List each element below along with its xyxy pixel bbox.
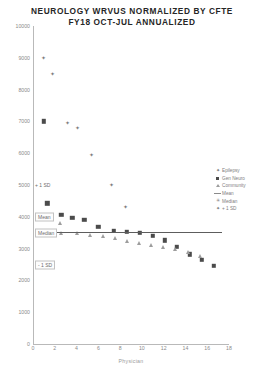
x-axis-tick-label: 8 [119, 345, 122, 351]
y-axis-tick-label: 10000 [16, 23, 30, 29]
data-point-triangle [125, 239, 129, 243]
data-point-square [212, 264, 216, 268]
data-point-triangle [58, 221, 62, 225]
data-point-triangle [101, 234, 105, 238]
data-point-triangle [186, 250, 190, 254]
plot-annotation: Median [35, 228, 57, 237]
data-point-square [70, 216, 74, 220]
y-axis-tick-label: 7000 [18, 118, 30, 124]
x-axis-tick-label: 12 [161, 345, 167, 351]
x-axis-tick-label: 6 [97, 345, 100, 351]
chart-legend: ✦EpilepsyGen NeuroCommunityMean✳Median✦+… [213, 167, 263, 213]
triangle-icon [216, 184, 220, 187]
chart-page: NEUROLOGY WRVUS NORMALIZED BY CFTE FY18 … [0, 0, 264, 388]
x-axis-tick-label: 10 [139, 345, 145, 351]
square-icon [213, 177, 222, 181]
x-axis-tick-label: 4 [75, 345, 78, 351]
x-axis-tick-label: 16 [204, 345, 210, 351]
y-axis-tick-label: 8000 [18, 87, 30, 93]
data-point-triangle [198, 254, 202, 258]
data-point-plus: ✦ [109, 182, 114, 188]
y-axis-tick-label: 3000 [18, 246, 30, 252]
data-point-square [151, 234, 155, 238]
x-axis-tick-label: 18 [226, 345, 232, 351]
legend-item[interactable]: Community [213, 182, 263, 190]
x-axis-title: Physician [119, 358, 144, 364]
y-axis-tick-label: 1000 [18, 309, 30, 315]
data-point-plus: ✦ [65, 120, 70, 126]
data-point-plus: ✦ [123, 204, 128, 210]
legend-item-label: Mean [222, 191, 234, 196]
data-point-triangle [137, 241, 141, 245]
data-point-square [200, 258, 204, 262]
plus-icon: ✦ [216, 168, 220, 173]
data-point-plus: ✦ [75, 125, 80, 131]
y-axis-tick-label: 5000 [18, 182, 30, 188]
mean-reference-line [44, 232, 223, 233]
y-axis-tick-label: 4000 [18, 214, 30, 220]
y-axis-tick-label: 0 [27, 341, 30, 347]
legend-item[interactable]: ✳Median [213, 197, 263, 205]
square-icon [216, 177, 220, 181]
x-axis-tick-label: 2 [53, 345, 56, 351]
plus-icon: ✦ [216, 206, 220, 211]
data-point-square [45, 201, 49, 205]
y-axis-tick-label: 2000 [18, 277, 30, 283]
legend-item-label: + 1 SD [222, 206, 236, 211]
data-point-square [59, 213, 63, 217]
data-point-square [163, 238, 167, 242]
x-axis-tick-label: 0 [32, 345, 35, 351]
plus-icon: ✦ [213, 168, 222, 173]
chart-title-line-1: NEUROLOGY WRVUS NORMALIZED BY CFTE [0, 6, 264, 17]
data-point-square [82, 218, 86, 222]
data-point-triangle [113, 236, 117, 240]
chart-title: NEUROLOGY WRVUS NORMALIZED BY CFTE FY18 … [0, 6, 264, 28]
data-point-plus: ✦ [41, 55, 46, 61]
plus-icon: ✦ [213, 206, 222, 211]
line-icon [213, 193, 222, 194]
legend-item-label: Epilepsy [222, 168, 240, 173]
data-point-triangle [149, 243, 153, 247]
plot-area: 0100020003000400050006000700080009000100… [33, 26, 229, 344]
x-axis-tick-label: 14 [183, 345, 189, 351]
data-point-plus: ✦ [89, 152, 94, 158]
data-point-triangle [161, 245, 165, 249]
line-icon [214, 193, 221, 194]
y-axis-tick-label: 9000 [18, 55, 30, 61]
legend-item[interactable]: Gen Neuro [213, 175, 263, 183]
data-point-triangle [173, 247, 177, 251]
star-icon: ✳ [213, 198, 222, 203]
plot-annotation: + 1 SD [35, 182, 50, 188]
legend-item[interactable]: Mean [213, 190, 263, 198]
data-point-square [96, 225, 100, 229]
triangle-icon [213, 184, 222, 187]
legend-item-label: Median [222, 199, 237, 204]
legend-item[interactable]: ✦Epilepsy [213, 167, 263, 175]
x-axis-line [33, 344, 229, 345]
legend-item-label: Community [222, 183, 246, 188]
plot-annotation: - 1 SD [35, 260, 55, 269]
legend-item[interactable]: ✦+ 1 SD [213, 205, 263, 213]
y-axis-tick-label: 6000 [18, 150, 30, 156]
legend-item-label: Gen Neuro [222, 176, 245, 181]
plot-annotation: Mean [35, 212, 54, 221]
data-point-square [42, 119, 46, 123]
y-axis-line [33, 26, 34, 344]
data-point-plus: ✦ [50, 71, 55, 77]
star-icon: ✳ [216, 198, 220, 203]
